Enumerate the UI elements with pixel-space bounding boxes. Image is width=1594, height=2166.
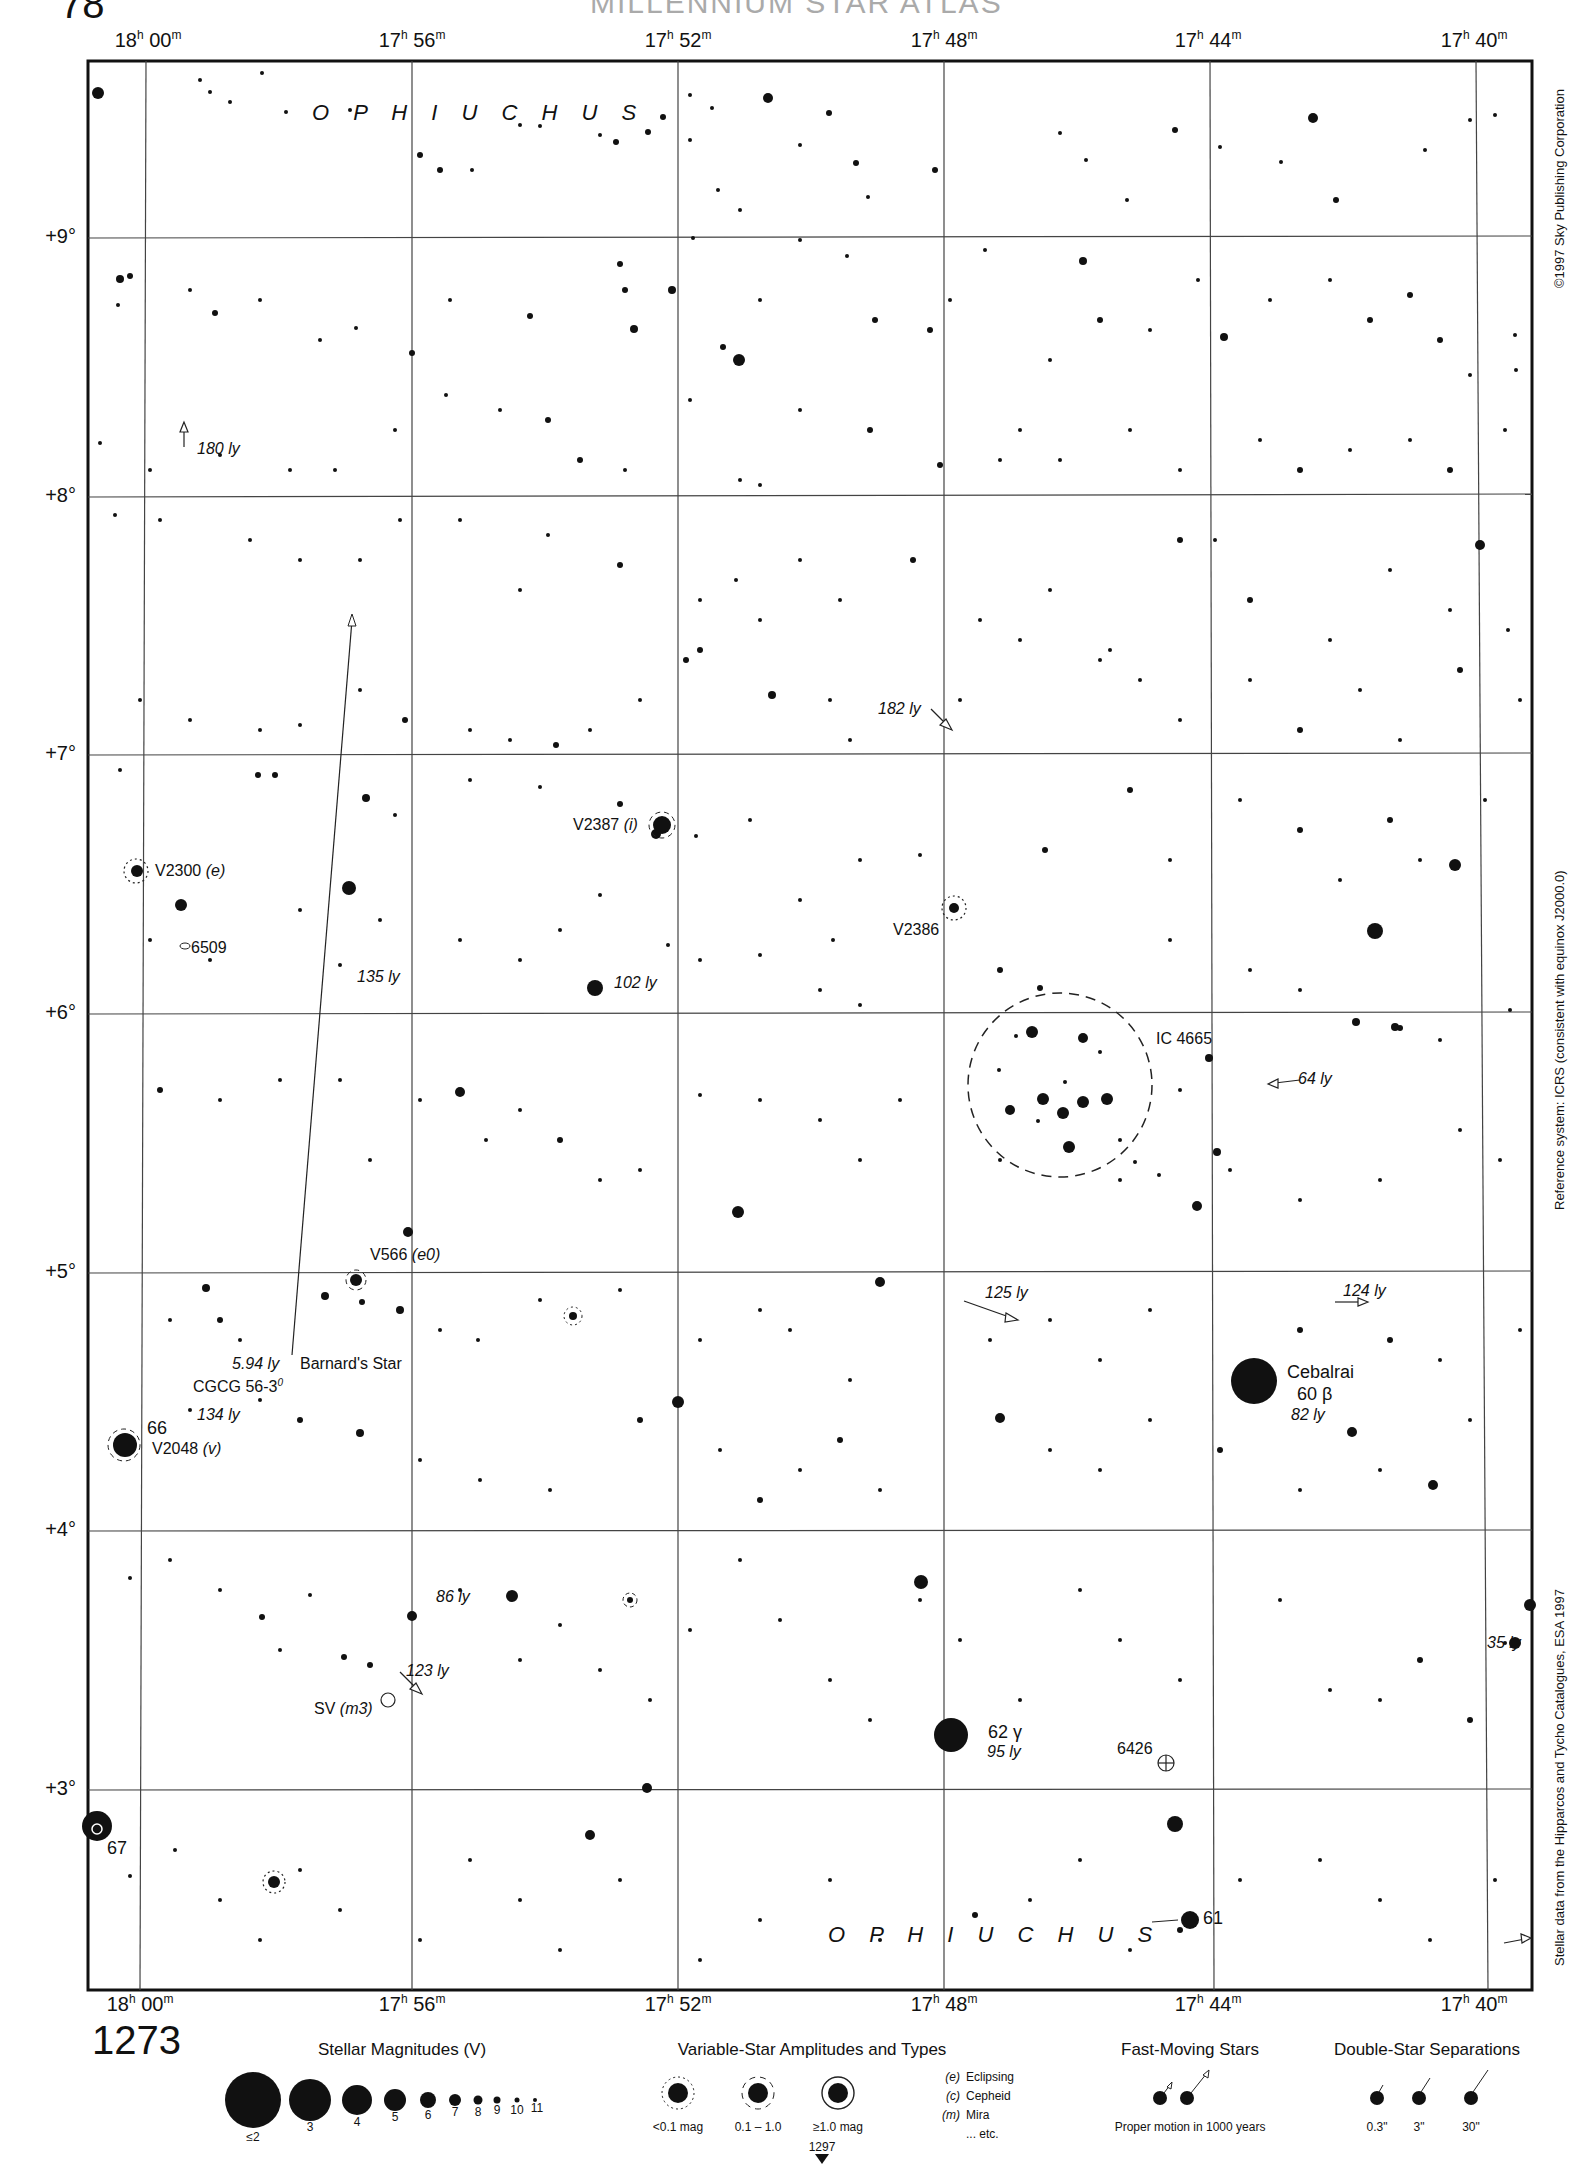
label-102ly: 102 ly bbox=[614, 974, 657, 992]
type-etc: ... etc. bbox=[934, 2125, 1014, 2144]
faint-stars bbox=[98, 71, 1522, 1962]
mag-label-4: 4 bbox=[354, 2115, 361, 2129]
copyright-note: ©1997 Sky Publishing Corporation bbox=[1552, 89, 1567, 288]
star-62-gamma bbox=[934, 1718, 968, 1752]
label-v2386: V2386 bbox=[893, 921, 939, 939]
label-60-beta: 60 β bbox=[1297, 1384, 1332, 1405]
mag-label-9: 9 bbox=[494, 2103, 501, 2117]
next-chart-link[interactable]: 1297 bbox=[809, 2140, 836, 2154]
label-star-67: 67 bbox=[107, 1838, 127, 1859]
star-67 bbox=[82, 1811, 112, 1841]
label-82ly: 82 ly bbox=[1291, 1406, 1325, 1424]
label-cebalrai: Cebalrai bbox=[1287, 1362, 1354, 1383]
label-95ly: 95 ly bbox=[987, 1743, 1021, 1761]
constellation-label-top: O P H I U C H U S bbox=[312, 100, 645, 126]
label-134ly: 134 ly bbox=[197, 1406, 240, 1424]
label-sv: SV (m3) bbox=[314, 1700, 373, 1718]
ngc6426-symbol bbox=[1158, 1755, 1174, 1771]
label-cgcg-56-3: CGCG 56-30 bbox=[193, 1377, 283, 1396]
amplitude-lt-0-1: <0.1 mag bbox=[653, 2120, 703, 2134]
variables-title: Variable-Star Amplitudes and Types bbox=[678, 2040, 947, 2060]
label-35ly: 35 ly bbox=[1487, 1634, 1521, 1652]
label-5-94ly: 5.94 ly bbox=[232, 1355, 279, 1373]
magnitudes-title: Stellar Magnitudes (V) bbox=[318, 2040, 486, 2060]
proper-motion-caption: Proper motion in 1000 years bbox=[1115, 2120, 1266, 2134]
doubles-title: Double-Star Separations bbox=[1334, 2040, 1520, 2060]
label-v566: V566 (e0) bbox=[370, 1246, 440, 1264]
bright-stars bbox=[92, 87, 1536, 1840]
label-123ly: 123 ly bbox=[406, 1662, 449, 1680]
type-cepheid: (c)Cepheid bbox=[934, 2087, 1014, 2106]
data-source-note: Stellar data from the Hipparcos and Tych… bbox=[1552, 1589, 1567, 1966]
mag-label-7: 7 bbox=[452, 2105, 459, 2119]
mag-label-10: 10 bbox=[510, 2103, 523, 2117]
label-v2048: V2048 (v) bbox=[152, 1440, 221, 1458]
label-124ly: 124 ly bbox=[1343, 1282, 1386, 1300]
dec-gridlines bbox=[88, 236, 1532, 1790]
mag-label-11: 11 bbox=[531, 2101, 543, 2115]
sep-30: 30" bbox=[1462, 2120, 1480, 2134]
proper-motion-symbols bbox=[1140, 2060, 1250, 2120]
label-barnards-star: Barnard's Star bbox=[300, 1355, 402, 1373]
label-62-gamma: 62 γ bbox=[988, 1722, 1022, 1743]
star-61-symbol bbox=[1150, 1910, 1210, 1940]
constellation-label-bottom: O P H I U C H U S bbox=[828, 1922, 1161, 1948]
mag-label-2: ≤2 bbox=[246, 2130, 259, 2144]
amplitude-ge-1: ≥1.0 mag bbox=[813, 2120, 863, 2134]
label-ngc6509: 6509 bbox=[191, 939, 227, 957]
variable-types-list: (e)Eclipsing (c)Cepheid (m)Mira ... etc. bbox=[934, 2068, 1014, 2144]
fast-moving-title: Fast-Moving Stars bbox=[1121, 2040, 1259, 2060]
reference-system-note: Reference system: ICRS (consistent with … bbox=[1552, 870, 1567, 1210]
label-v2387: V2387 (i) bbox=[573, 816, 638, 834]
label-v2300: V2300 (e) bbox=[155, 862, 225, 880]
label-star-66: 66 bbox=[147, 1418, 167, 1439]
label-125ly: 125 ly bbox=[985, 1284, 1028, 1302]
star-66 bbox=[113, 1433, 137, 1457]
label-86ly: 86 ly bbox=[436, 1588, 470, 1606]
mag-label-5: 5 bbox=[392, 2110, 399, 2124]
type-mira: (m)Mira bbox=[934, 2106, 1014, 2125]
mag-label-3: 3 bbox=[307, 2120, 314, 2134]
variable-amplitude-symbols bbox=[650, 2065, 890, 2125]
sep-0-3: 0.3" bbox=[1367, 2120, 1388, 2134]
label-ngc6426: 6426 bbox=[1117, 1740, 1153, 1758]
sep-3: 3" bbox=[1414, 2120, 1425, 2134]
chart-number: 1273 bbox=[92, 2018, 181, 2063]
next-chart-arrow-icon[interactable] bbox=[815, 2154, 829, 2164]
label-182ly: 182 ly bbox=[878, 700, 921, 718]
label-180ly: 180 ly bbox=[197, 440, 240, 458]
star-cebalrai bbox=[1231, 1358, 1277, 1404]
mag-label-6: 6 bbox=[425, 2108, 432, 2122]
type-eclipsing: (e)Eclipsing bbox=[934, 2068, 1014, 2087]
label-64ly: 64 ly bbox=[1298, 1070, 1332, 1088]
double-separation-symbols bbox=[1360, 2060, 1500, 2120]
label-135ly: 135 ly bbox=[357, 968, 400, 986]
amplitude-0-1-to-1: 0.1 – 1.0 bbox=[735, 2120, 782, 2134]
mag-label-8: 8 bbox=[475, 2105, 482, 2119]
label-ic4665: IC 4665 bbox=[1156, 1030, 1212, 1048]
star-chart bbox=[0, 0, 1594, 2166]
